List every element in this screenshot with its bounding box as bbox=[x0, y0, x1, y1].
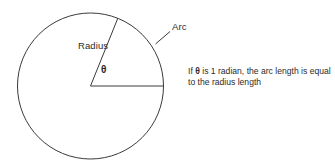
angled-radius-line bbox=[91, 18, 118, 86]
radian-diagram: Radius Arc θ If θ is 1 radian, the arc l… bbox=[0, 0, 335, 165]
theta-angle-label: θ bbox=[101, 65, 107, 76]
radius-label: Radius bbox=[78, 41, 108, 52]
caption-text: If θ is 1 radian, the arc length is equa… bbox=[188, 66, 333, 87]
caption-suffix: is 1 radian, the arc length is equal to … bbox=[188, 66, 331, 87]
arc-label: Arc bbox=[172, 22, 187, 33]
arc-leader-line bbox=[156, 32, 171, 45]
